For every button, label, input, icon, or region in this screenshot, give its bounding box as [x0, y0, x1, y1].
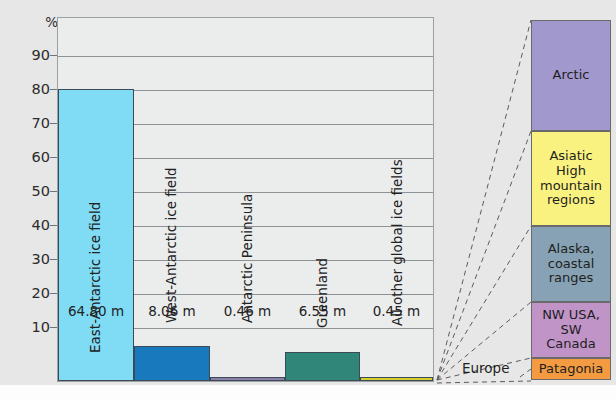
legend-item-nw-usa-sw-canada[interactable]: NW USA, SW Canada — [531, 302, 611, 358]
y-axis-unit-label: % — [16, 14, 58, 30]
y-tick-mark-80 — [50, 89, 57, 90]
bar-greenland[interactable] — [285, 352, 360, 381]
annotation-europe: Europe — [462, 360, 509, 376]
chart-figure: % 90 80 70 60 50 40 30 20 10 — [0, 0, 616, 400]
y-tick-mark-10 — [50, 327, 57, 328]
legend-label-asiatic-line1: Asiatic — [549, 149, 592, 164]
legend-label-alaska-line1: Alaska, — [548, 242, 595, 257]
legend-label-patagonia: Patagonia — [539, 362, 603, 377]
bar-category-label-west-antarctic: West-Antarctic ice field — [164, 108, 178, 323]
y-tick-label-60: 60 — [16, 150, 50, 165]
y-tick-label-30: 30 — [16, 252, 50, 267]
y-tick-label-10: 10 — [16, 320, 50, 335]
y-tick-mark-30 — [50, 259, 57, 260]
y-tick-label-90: 90 — [16, 48, 50, 63]
bar-category-label-antarctic-peninsula: Antarctic Peninsula — [240, 118, 254, 323]
y-tick-mark-90 — [50, 55, 57, 56]
y-tick-mark-70 — [50, 123, 57, 124]
legend-label-arctic: Arctic — [553, 68, 590, 83]
legend-item-asiatic-high-mountain-regions[interactable]: Asiatic High mountain regions — [531, 131, 611, 226]
y-tick-label-50: 50 — [16, 184, 50, 199]
legend-item-patagonia[interactable]: Patagonia — [531, 358, 611, 380]
bar-antarctic-peninsula[interactable] — [210, 377, 285, 381]
bar-category-label-all-other: All other global ice fields — [390, 106, 404, 326]
bar-value-label-greenland: 6.55 m — [285, 303, 360, 319]
y-tick-mark-40 — [50, 225, 57, 226]
legend-label-nwusa-line3: Canada — [546, 337, 595, 352]
legend-label-asiatic-line2: High — [556, 164, 586, 179]
y-tick-mark-60 — [50, 157, 57, 158]
legend-item-arctic[interactable]: Arctic — [531, 20, 611, 131]
bar-value-label-west-antarctic: 8.06 m — [134, 303, 210, 319]
legend-label-alaska-line3: ranges — [549, 271, 594, 286]
legend-label-nwusa-line1: NW USA, — [542, 308, 600, 323]
bar-all-other-global-ice-fields[interactable] — [360, 377, 433, 381]
bar-value-label-all-other: 0.45 m — [360, 303, 433, 319]
y-tick-label-70: 70 — [16, 116, 50, 131]
y-tick-label-80: 80 — [16, 82, 50, 97]
y-tick-label-40: 40 — [16, 218, 50, 233]
legend-label-asiatic-line4: regions — [547, 193, 595, 208]
legend: Arctic Asiatic High mountain regions Ala… — [531, 20, 611, 380]
legend-label-nwusa-line2: SW — [560, 323, 581, 338]
bar-category-label-east-antarctic: East-Antarctic ice field — [88, 148, 102, 353]
y-axis: % 90 80 70 60 50 40 30 20 10 — [8, 0, 50, 400]
legend-label-asiatic-line3: mountain — [540, 179, 602, 194]
y-tick-mark-50 — [50, 191, 57, 192]
figure-footer-strip — [0, 385, 616, 400]
y-tick-label-20: 20 — [16, 286, 50, 301]
plot-area: East-Antarctic ice field West-Antarctic … — [57, 17, 434, 382]
y-tick-mark-20 — [50, 293, 57, 294]
legend-item-alaska-coastal-ranges[interactable]: Alaska, coastal ranges — [531, 226, 611, 302]
gridline-90 — [58, 56, 433, 57]
bar-west-antarctic-ice-field[interactable] — [134, 346, 210, 381]
legend-label-alaska-line2: coastal — [548, 257, 595, 272]
bar-value-label-antarctic-peninsula: 0.46 m — [210, 303, 285, 319]
bar-value-label-east-antarctic: 64.80 m — [58, 303, 134, 319]
